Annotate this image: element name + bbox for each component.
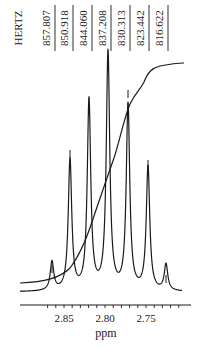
- peak-label: 850.918: [58, 10, 70, 46]
- x-axis-tick-labels: 2.852.802.75: [54, 312, 156, 324]
- peak-label: 816.622: [153, 10, 165, 46]
- unit-label: HERTZ: [12, 10, 24, 45]
- spectrum-line: [20, 49, 182, 291]
- peak-label: 823.442: [134, 10, 146, 46]
- peak-label: 830.313: [115, 10, 127, 46]
- peak-labels: 857.807850.918844.060837.208830.313823.4…: [40, 5, 168, 51]
- x-tick-label: 2.75: [136, 312, 156, 324]
- peak-label: 857.807: [40, 10, 52, 46]
- x-tick-label: 2.85: [54, 312, 74, 324]
- x-axis-label: ppm: [95, 326, 117, 340]
- integral-curve: [20, 63, 184, 283]
- peak-label: 837.208: [96, 10, 108, 46]
- peak-label: 844.060: [77, 10, 89, 46]
- x-tick-label: 2.80: [95, 312, 115, 324]
- nmr-spectrum-chart: HERTZ 857.807850.918844.060837.208830.31…: [0, 0, 200, 349]
